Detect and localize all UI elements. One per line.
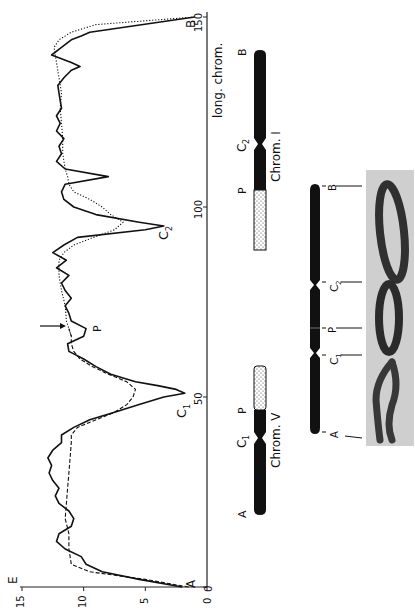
y-tick-label-0: 0 — [202, 598, 213, 604]
chrom-v-stippled-segment — [254, 366, 266, 410]
chrom-i-black-segment — [254, 50, 266, 190]
long-chrom-body — [310, 184, 320, 434]
chrom-i-label-P: P — [236, 187, 249, 194]
chrom-i-stippled-segment — [254, 190, 266, 250]
annot-C2: C 2 — [156, 226, 174, 240]
arrow-p-icon — [40, 323, 66, 329]
x-tick-label-0: 0 — [203, 586, 214, 592]
chrom-i-label-C2: C 2 — [235, 139, 251, 152]
annot-A: A — [184, 579, 198, 588]
chrom-i-label-B: B — [236, 48, 249, 56]
y-tick-label-5: 5 — [139, 598, 150, 604]
figure: 0 50 100 150 15 10 5 0 E long. chrom. A … — [0, 0, 415, 614]
chrom-v-label-A: A — [236, 510, 249, 518]
chrom-v-name: Chrom. V — [269, 412, 283, 468]
x-tick-label-100: 100 — [193, 200, 204, 219]
long-label-C1: C 1 — [328, 354, 343, 365]
chrom-v-label-C1: C 1 — [235, 435, 251, 448]
ideogram-chrom-I: P C 2 B Chrom. I — [235, 48, 283, 250]
chromosome-micrograph — [366, 170, 414, 446]
x-axis-title: long. chrom. — [211, 43, 225, 118]
svg-text:C: C — [174, 409, 189, 418]
ideogram-long-chromosome: B C 2 P C 1 A — [310, 184, 362, 438]
x-tick-label-50: 50 — [193, 392, 204, 405]
svg-text:2: 2 — [242, 139, 251, 144]
svg-text:2: 2 — [335, 281, 343, 285]
y-tick-label-10: 10 — [77, 595, 88, 608]
y-tick-label-15: 15 — [15, 595, 26, 608]
svg-text:1: 1 — [183, 404, 192, 409]
series-dashed-line — [65, 329, 188, 587]
svg-text:2: 2 — [165, 226, 174, 231]
long-label-P: P — [327, 327, 338, 333]
annot-P: P — [91, 325, 104, 332]
svg-text:1: 1 — [242, 435, 251, 440]
chrom-i-name: Chrom. I — [269, 131, 283, 182]
chrom-v-black-segment — [254, 410, 266, 515]
chrom-v-label-P: P — [236, 407, 249, 414]
long-label-C2: C 2 — [328, 281, 343, 292]
svg-text:C: C — [156, 231, 171, 240]
ideogram-chrom-V: P C 1 A Chrom. V — [235, 366, 283, 518]
svg-text:1: 1 — [335, 354, 343, 358]
long-label-B: B — [327, 184, 338, 191]
long-label-A: A — [329, 431, 340, 438]
annot-B: B — [184, 20, 198, 28]
y-axis-title: E — [6, 576, 20, 584]
densitometer-profile: 0 50 100 150 15 10 5 0 E long. chrom. A … — [6, 12, 225, 608]
series-solid-line — [48, 17, 195, 587]
annot-C1: C 1 — [174, 404, 192, 418]
